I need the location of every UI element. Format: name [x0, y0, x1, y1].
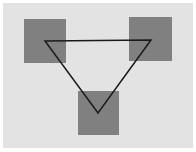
diagram-canvas — [0, 0, 196, 152]
squares-group — [24, 17, 172, 135]
square-top-right — [129, 17, 172, 61]
